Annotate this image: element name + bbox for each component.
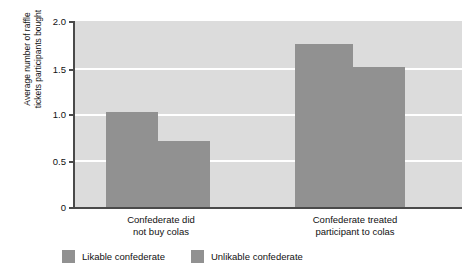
y-tick-label-0.5: 0.5	[53, 156, 66, 167]
legend-swatch-icon-likable	[62, 250, 75, 263]
y-tick-label-2.0: 2.0	[53, 16, 66, 27]
bar-group2-unlikable	[353, 67, 405, 207]
y-tick-label-1.0: 1.0	[53, 109, 66, 120]
y-tick-label-0: 0	[61, 202, 66, 213]
clipped-title-text	[75, 0, 395, 2]
x-category-label-2: Confederate treated participant to colas	[285, 214, 425, 238]
x-category-label-1-line-1: Confederate did	[96, 214, 226, 226]
bar-group1-likable	[106, 112, 158, 207]
legend-label-likable: Likable confederate	[82, 251, 165, 262]
y-axis-line	[73, 21, 75, 207]
bar-group1-unlikable	[158, 141, 210, 207]
x-category-label-2-line-1: Confederate treated	[285, 214, 425, 226]
x-category-label-1-line-2: not buy colas	[96, 226, 226, 238]
legend-label-unlikable: Unlikable confederate	[211, 251, 303, 262]
legend-item-likable: Likable confederate	[62, 250, 165, 263]
y-axis-tick-labels: 2.0 1.5 1.0 0.5 0	[0, 0, 66, 277]
legend-swatch-icon-unlikable	[191, 250, 204, 263]
legend-item-unlikable: Unlikable confederate	[191, 250, 303, 263]
bar-group2-likable	[295, 44, 353, 207]
x-category-label-2-line-2: participant to colas	[285, 226, 425, 238]
x-category-label-1: Confederate did not buy colas	[96, 214, 226, 238]
bar-chart-figure: Average number of raffle tickets partici…	[0, 0, 467, 277]
chart-legend: Likable confederate Unlikable confederat…	[62, 250, 303, 263]
y-tick-label-1.5: 1.5	[53, 64, 66, 75]
x-axis-line	[73, 207, 462, 209]
plot-area	[75, 21, 462, 207]
